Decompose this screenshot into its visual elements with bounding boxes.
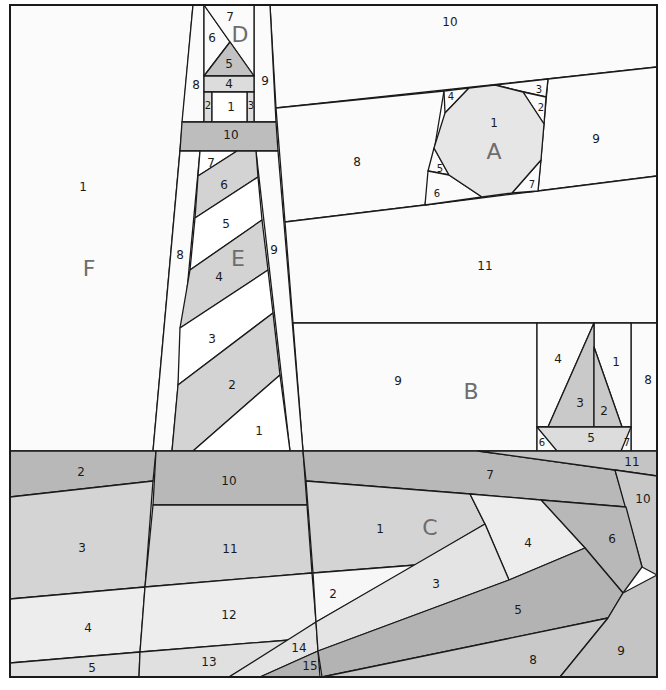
label-D8: 8 xyxy=(192,78,200,92)
label-C10: 10 xyxy=(635,492,650,506)
label-C7: 7 xyxy=(486,468,494,482)
label-A8: 8 xyxy=(353,155,361,169)
label-C4: 4 xyxy=(524,536,532,550)
label-C2: 2 xyxy=(329,587,337,601)
label-D2: 2 xyxy=(205,100,211,111)
label-E4: 4 xyxy=(215,270,223,284)
label-D1: 1 xyxy=(227,100,235,114)
label-D9: 9 xyxy=(261,74,269,88)
label-F15: 15 xyxy=(302,659,317,673)
label-A9: 9 xyxy=(592,132,600,146)
label-E1: 1 xyxy=(255,424,263,438)
label-B2: 2 xyxy=(600,404,608,418)
label-A1: 1 xyxy=(490,116,498,130)
label-E8: 8 xyxy=(176,248,184,262)
label-C3: 3 xyxy=(432,577,440,591)
section-label-B: B xyxy=(463,379,478,404)
label-D4: 4 xyxy=(225,77,233,91)
label-B3: 3 xyxy=(576,396,584,410)
label-F10: 10 xyxy=(221,474,236,488)
label-A3: 3 xyxy=(536,84,542,95)
label-E9: 9 xyxy=(270,243,278,257)
label-C9: 9 xyxy=(617,644,625,658)
section-label-C: C xyxy=(422,515,437,540)
label-F14: 14 xyxy=(291,641,306,655)
label-B4: 4 xyxy=(554,352,562,366)
label-D6: 6 xyxy=(208,31,216,45)
label-B8: 8 xyxy=(644,373,652,387)
label-F11: 11 xyxy=(222,542,237,556)
label-E3: 3 xyxy=(208,332,216,346)
label-C1: 1 xyxy=(376,522,384,536)
section-label-D: D xyxy=(232,22,249,47)
label-C8: 8 xyxy=(529,653,537,667)
label-A11: 11 xyxy=(477,259,492,273)
label-D10: 10 xyxy=(223,128,238,142)
label-E5: 5 xyxy=(222,217,230,231)
piece-F4 xyxy=(10,587,145,663)
label-F12: 12 xyxy=(221,608,236,622)
label-C5: 5 xyxy=(514,603,522,617)
piece-B9 xyxy=(293,323,537,451)
label-B6: 6 xyxy=(539,437,545,448)
piece-A9 xyxy=(538,67,657,191)
label-A5: 5 xyxy=(437,163,443,174)
label-B9: 9 xyxy=(394,374,402,388)
label-A6: 6 xyxy=(434,188,440,199)
label-C11: 11 xyxy=(624,455,639,469)
label-A2: 2 xyxy=(538,102,544,113)
label-E7: 7 xyxy=(207,156,215,170)
label-C6: 6 xyxy=(608,532,616,546)
label-D5: 5 xyxy=(225,57,233,71)
section-label-F: F xyxy=(83,256,96,281)
label-B1: 1 xyxy=(612,355,620,369)
label-A7: 7 xyxy=(529,179,535,190)
label-B7: 7 xyxy=(624,437,630,448)
piece-B8 xyxy=(631,323,657,451)
section-label-E: E xyxy=(231,246,245,271)
label-F5: 5 xyxy=(88,661,96,675)
label-F4: 4 xyxy=(84,621,92,635)
section-label-A: A xyxy=(486,139,501,164)
label-A10: 10 xyxy=(442,15,457,29)
label-E6: 6 xyxy=(220,178,228,192)
quilt-pattern-diagram: 7 6 D 5 4 8 9 2 1 3 10 10 4 3 2 1 A 8 9 … xyxy=(0,0,666,690)
label-F3: 3 xyxy=(78,541,86,555)
label-E2: 2 xyxy=(228,378,236,392)
label-F2: 2 xyxy=(77,465,85,479)
label-F13: 13 xyxy=(201,655,216,669)
label-F1: 1 xyxy=(79,180,87,194)
label-B5: 5 xyxy=(587,431,595,445)
label-D3: 3 xyxy=(248,100,254,111)
label-A4: 4 xyxy=(448,91,454,102)
